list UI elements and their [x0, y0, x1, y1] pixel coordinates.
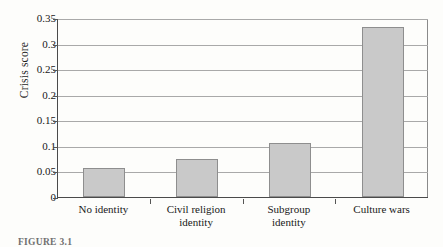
x-tick-label-line: identity [243, 216, 336, 229]
x-tick-label-line: Civil religion [150, 203, 243, 216]
y-tick-mark [53, 121, 58, 122]
x-tick-label: Culture wars [335, 203, 428, 216]
x-tick-label-line: No identity [57, 203, 150, 216]
x-tick-mark [335, 199, 336, 204]
x-axis-tick-labels: No identityCivil religionidentitySubgrou… [57, 203, 428, 233]
bar-series [58, 19, 428, 197]
x-tick-mark [150, 199, 151, 204]
y-tick-mark [53, 147, 58, 148]
figure-caption-prefix: FIGURE 3.1 [18, 237, 72, 247]
x-tick-mark [243, 199, 244, 204]
x-tick-label-line: Culture wars [335, 203, 428, 216]
bar [362, 27, 404, 197]
figure-caption: FIGURE 3.1 [18, 237, 430, 247]
bar [83, 168, 125, 197]
y-tick-mark [53, 198, 58, 199]
y-tick-mark [53, 19, 58, 20]
y-axis-tick-labels: 00.050.10.150.20.250.30.35 [24, 0, 56, 247]
y-tick-mark [53, 96, 58, 97]
figure-container: Crisis score 00.050.10.150.20.250.30.35 … [0, 0, 443, 247]
y-tick-mark [53, 70, 58, 71]
x-tick-label-line: identity [150, 216, 243, 229]
plot-area [57, 19, 428, 198]
x-tick-label: No identity [57, 203, 150, 216]
y-tick-mark [53, 45, 58, 46]
x-tick-label: Subgroupidentity [243, 203, 336, 228]
bar [269, 143, 311, 197]
x-tick-label: Civil religionidentity [150, 203, 243, 228]
bar [176, 159, 218, 197]
x-tick-label-line: Subgroup [243, 203, 336, 216]
y-tick-mark [53, 172, 58, 173]
